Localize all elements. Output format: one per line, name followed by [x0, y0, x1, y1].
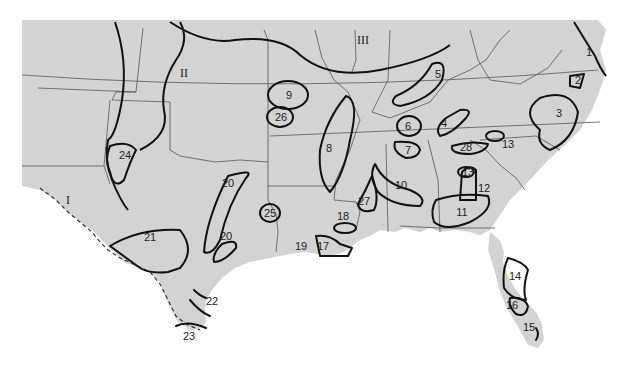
zone-label-4: 4 [441, 118, 447, 129]
zone-label-17: 17 [317, 241, 329, 252]
zone-label-18: 18 [337, 211, 349, 222]
zone-label-27: 27 [358, 196, 370, 207]
zone-label-10: 10 [395, 180, 407, 191]
zone-label-25: 25 [264, 208, 276, 219]
zone-label-24: 24 [119, 150, 131, 161]
zone-label-2: 2 [575, 75, 581, 86]
region-label-III: III [357, 34, 369, 46]
zone-label-23: 23 [183, 331, 195, 342]
zone-label-28: 28 [460, 142, 472, 153]
zone-label-8: 8 [326, 143, 332, 154]
zone-label-26: 26 [275, 112, 287, 123]
region-label-I: I [66, 194, 70, 206]
zone-label-3: 3 [556, 108, 562, 119]
map-canvas [0, 0, 627, 366]
zone-label-19: 19 [295, 241, 307, 252]
zone-label-13b: 13 [502, 139, 514, 150]
zone-label-9: 9 [286, 90, 292, 101]
region-label-II: II [180, 67, 188, 79]
zone-label-6: 6 [405, 121, 411, 132]
zone-label-20a: 20 [222, 178, 234, 189]
zone-label-5: 5 [435, 69, 441, 80]
zone-label-14: 14 [509, 271, 521, 282]
zone-label-1: 1 [586, 47, 592, 58]
zone-label-20b: 20 [220, 231, 232, 242]
zone-label-11: 11 [456, 207, 467, 218]
florida-peninsula [488, 232, 544, 348]
zone-label-15: 15 [523, 322, 535, 333]
zone-label-16: 16 [506, 300, 518, 311]
zone-label-7: 7 [405, 145, 411, 156]
zone-label-22: 22 [206, 296, 218, 307]
zone-label-13a: 13 [462, 167, 474, 178]
zone-label-21: 21 [144, 232, 156, 243]
zone-label-12: 12 [478, 183, 490, 194]
